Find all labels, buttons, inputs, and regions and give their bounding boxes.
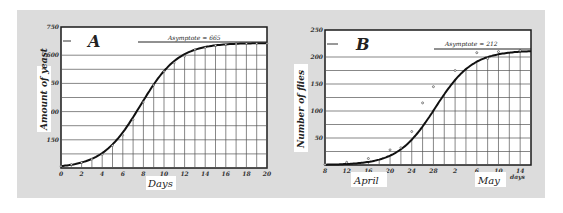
chart-b-y-ticks: 50100150200250 [309, 26, 323, 141]
y-tick-label: 250 [309, 26, 323, 33]
x-tick-label: 8 [323, 167, 328, 174]
data-point [400, 147, 402, 149]
x-tick-label: 24 [407, 167, 416, 174]
x-tick-label: 18 [242, 170, 251, 177]
chart-b-month-april: April [353, 175, 379, 186]
y-tick-label: 150 [310, 80, 323, 87]
data-point [389, 149, 391, 151]
chart-a-panel-label: A [86, 32, 100, 51]
data-point [497, 51, 499, 53]
data-point [256, 43, 258, 45]
data-point [411, 131, 413, 133]
data-point [432, 86, 434, 88]
x-tick-label: 28 [428, 167, 438, 174]
y-tick-label: 100 [310, 107, 323, 114]
data-point [454, 70, 456, 72]
data-point [194, 49, 196, 51]
data-point [266, 42, 268, 44]
data-point [163, 71, 165, 73]
x-tick-label: 12 [343, 167, 351, 174]
x-tick-label: 12 [180, 170, 188, 177]
data-point [246, 43, 248, 45]
chart-b-month-may: May [477, 175, 500, 186]
data-point [122, 134, 124, 136]
chart-a-ylabel: Amount of yeast [39, 47, 49, 131]
data-point [204, 47, 206, 49]
chart-a-x-ticks: 02468101214161820 [59, 170, 272, 177]
data-point [422, 102, 424, 104]
chart-b-panel-label: B [355, 35, 370, 54]
data-point [519, 50, 521, 52]
chart-b: Asymptote = 212 B 50100150200250 8121620… [294, 26, 531, 187]
data-point [112, 145, 114, 147]
chart-a-asymptote-label: Asymptote = 665 [167, 34, 221, 42]
y-tick-label: 750 [46, 23, 59, 30]
data-point [81, 162, 83, 164]
y-tick-label: 200 [309, 53, 323, 60]
data-point [215, 45, 217, 47]
data-point [487, 58, 489, 60]
x-tick-label: 2 [452, 167, 457, 174]
figure: Asymptote = 665 A 150300450600750 024681… [0, 0, 563, 213]
chart-b-ylabel: Number of flies [296, 70, 306, 149]
data-point [173, 62, 175, 64]
data-point [153, 84, 155, 86]
x-tick-label: 4 [100, 170, 104, 177]
data-point [346, 161, 348, 163]
data-point [476, 52, 478, 54]
data-point [235, 43, 237, 45]
x-tick-label: 2 [79, 170, 84, 177]
data-point [367, 158, 369, 160]
x-tick-label: 20 [262, 170, 272, 177]
x-tick-label: 16 [222, 170, 231, 177]
x-tick-label: 0 [59, 170, 64, 177]
chart-a: Asymptote = 665 A 150300450600750 024681… [37, 23, 272, 190]
chart-b-days-suffix: days [510, 173, 526, 181]
data-point [70, 164, 72, 166]
data-point [324, 163, 326, 165]
y-tick-label: 50 [315, 134, 324, 141]
x-tick-label: 14 [201, 170, 209, 177]
chart-a-xlabel: Days [147, 178, 173, 189]
data-point [132, 119, 134, 121]
x-tick-label: 10 [160, 170, 169, 177]
data-point [101, 154, 103, 156]
chart-b-asymptote-label: Asymptote = 212 [444, 40, 498, 48]
x-tick-label: 6 [121, 170, 126, 177]
y-tick-label: 150 [46, 136, 59, 143]
data-point [184, 55, 186, 57]
x-tick-label: 8 [141, 170, 146, 177]
data-point [91, 158, 93, 160]
data-point [143, 101, 145, 103]
data-point [225, 44, 227, 46]
data-point [60, 165, 62, 167]
